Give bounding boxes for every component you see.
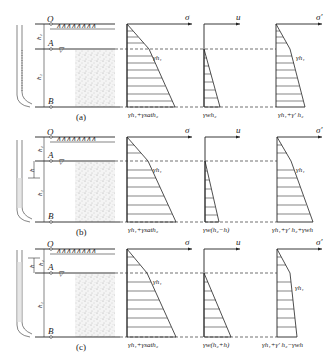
svg-text:σ′: σ′ [316, 125, 323, 135]
svg-text:A: A [47, 150, 54, 160]
svg-text:h₁: h₁ [36, 146, 44, 152]
svg-text:γh₁+γsath₂: γh₁+γsath₂ [128, 226, 159, 234]
svg-text:γh₁: γh₁ [296, 166, 305, 174]
panel-b: ∧∧∧∧∧∧∧∧ O A ▽ B h₁ h h₂ (b) σ γh₁ γh₁+γ… [17, 125, 323, 237]
svg-text:γh₁: γh₁ [296, 54, 305, 62]
svg-text:h: h [28, 264, 36, 268]
svg-text:h₂: h₂ [36, 302, 44, 309]
svg-text:B: B [48, 211, 54, 221]
panel-a: ∧∧∧∧∧∧∧∧ O A ▽ B h₁ h₂ (a) σ γh₁ γh₁+γsa… [17, 12, 323, 122]
caption-b: (b) [76, 227, 87, 237]
svg-text:∧∧∧∧∧∧∧∧: ∧∧∧∧∧∧∧∧ [56, 22, 96, 30]
u-bottom-value: γwh₂ [203, 111, 217, 119]
svg-text:h: h [28, 168, 36, 172]
h1-label: h₁ [35, 34, 43, 40]
caption-c: (c) [76, 342, 86, 352]
sigma-axis-label: σ [185, 12, 190, 22]
standpipe [17, 250, 32, 337]
sigma-eff-bottom-value: γh₁+γ′ h₂ [278, 111, 304, 119]
svg-text:▽: ▽ [58, 158, 65, 166]
svg-text:h₁: h₁ [37, 260, 45, 266]
svg-text:h₂: h₂ [36, 190, 44, 197]
svg-text:γh₁: γh₁ [153, 54, 162, 62]
svg-text:A: A [47, 262, 54, 272]
u-axis-label: u [236, 12, 241, 22]
sigma-eff-axis-label: σ′ [316, 12, 323, 22]
svg-text:γh₁: γh₁ [153, 278, 162, 286]
point-b-label: B [48, 96, 54, 106]
saturated-soil [75, 50, 115, 107]
svg-text:γh₁: γh₁ [153, 166, 162, 174]
svg-text:γh₁+γ′ h₂−γwh: γh₁+γ′ h₂−γwh [262, 341, 304, 349]
svg-text:σ′: σ′ [316, 237, 323, 247]
sigma-bottom-value: γh₁+γsath₂ [128, 111, 159, 119]
caption-a: (a) [76, 112, 86, 122]
point-a-label: A [47, 38, 54, 48]
panel-c: ∧∧∧∧∧∧∧∧ O A ▽ B h₁ h h₂ (c) σ γh₁ γh₁+γ… [17, 237, 323, 352]
svg-text:σ: σ [185, 237, 190, 247]
h2-label: h₂ [35, 74, 43, 81]
svg-text:γw(h₂+h): γw(h₂+h) [203, 341, 230, 349]
svg-text:∧∧∧∧∧∧∧∧: ∧∧∧∧∧∧∧∧ [56, 247, 96, 255]
water-table-symbol: ▽ [58, 46, 65, 54]
standpipe [17, 140, 32, 222]
svg-text:∧∧∧∧∧∧∧∧: ∧∧∧∧∧∧∧∧ [56, 135, 96, 143]
svg-text:γh₁: γh₁ [295, 284, 304, 292]
sigma-diagram [127, 24, 175, 107]
saturated-soil [75, 162, 115, 222]
svg-text:B: B [48, 326, 54, 336]
saturated-soil [75, 274, 115, 337]
svg-text:u: u [236, 125, 241, 135]
svg-text:γh₁+γsath₂: γh₁+γsath₂ [128, 341, 159, 349]
standpipe [17, 25, 32, 107]
svg-text:σ: σ [185, 125, 190, 135]
svg-text:γh₁+γ′ h₂+γwh: γh₁+γ′ h₂+γwh [272, 226, 314, 234]
svg-text:▽: ▽ [58, 270, 65, 278]
svg-text:γw(h₂−h): γw(h₂−h) [203, 226, 230, 234]
stress-distribution-diagram: ∧∧∧∧∧∧∧∧ O A ▽ B h₁ h₂ (a) σ γh₁ γh₁+γsa… [0, 0, 336, 360]
svg-text:u: u [236, 237, 241, 247]
